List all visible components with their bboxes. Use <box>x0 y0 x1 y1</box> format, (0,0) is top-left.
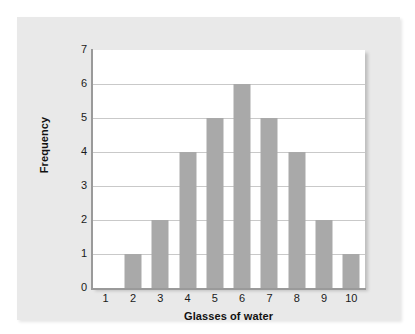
x-tick-label: 3 <box>147 292 173 304</box>
x-tick-label: 8 <box>284 292 310 304</box>
y-tick-label: 6 <box>71 78 87 89</box>
bar[interactable] <box>179 152 196 288</box>
bar[interactable] <box>124 254 141 288</box>
y-tick-label: 0 <box>71 282 87 293</box>
x-tick-label: 7 <box>256 292 282 304</box>
figure-root: 01234567 Frequency 12345678910 Glasses o… <box>0 0 415 334</box>
bar-slot <box>229 50 256 288</box>
bar[interactable] <box>316 220 333 288</box>
bar-slot <box>201 50 228 288</box>
bar[interactable] <box>152 220 169 288</box>
bar[interactable] <box>288 152 305 288</box>
x-tick-label: 5 <box>202 292 228 304</box>
bar-slot <box>147 50 174 288</box>
x-axis-tick-labels: 12345678910 <box>92 292 365 308</box>
x-tick-label: 2 <box>120 292 146 304</box>
x-tick-label: 6 <box>229 292 255 304</box>
bar[interactable] <box>234 84 251 288</box>
x-tick-label: 4 <box>175 292 201 304</box>
y-tick-label: 7 <box>71 44 87 55</box>
bar[interactable] <box>261 118 278 288</box>
bar-slot <box>338 50 365 288</box>
y-tick-label: 3 <box>71 180 87 191</box>
bars-layer <box>92 50 365 288</box>
y-tick-label: 1 <box>71 248 87 259</box>
bar-slot <box>310 50 337 288</box>
x-tick-label: 10 <box>338 292 364 304</box>
y-tick-label: 4 <box>71 146 87 157</box>
x-axis-title: Glasses of water <box>92 310 365 322</box>
bar[interactable] <box>343 254 360 288</box>
bar-slot <box>283 50 310 288</box>
bar-slot <box>119 50 146 288</box>
bar-slot <box>256 50 283 288</box>
bar-slot <box>92 50 119 288</box>
x-tick-label: 9 <box>311 292 337 304</box>
bar-slot <box>174 50 201 288</box>
y-axis-tick-labels: 01234567 <box>61 17 87 320</box>
y-tick-label: 5 <box>71 112 87 123</box>
y-axis-title: Frequency <box>38 100 50 190</box>
x-axis-line <box>91 288 366 290</box>
x-tick-label: 1 <box>93 292 119 304</box>
y-tick-label: 2 <box>71 214 87 225</box>
chart-card: 01234567 Frequency 12345678910 Glasses o… <box>17 17 400 320</box>
bar[interactable] <box>206 118 223 288</box>
